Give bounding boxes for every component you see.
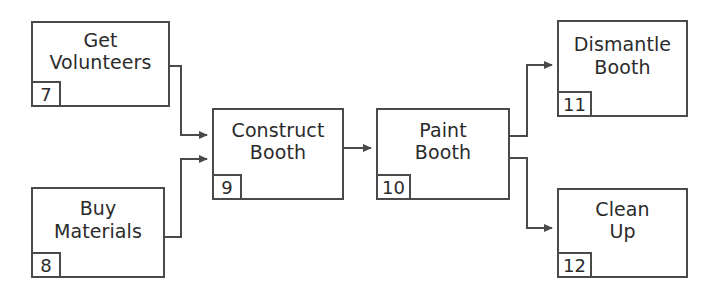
node-buy-materials: BuyMaterials8 (31, 187, 165, 278)
node-label-line: Volunteers (49, 51, 151, 73)
node-label-clean-up: CleanUp (559, 190, 686, 252)
node-paint-booth: PaintBooth10 (376, 108, 510, 200)
node-label-line: Booth (594, 56, 650, 78)
node-label-line: Get (83, 29, 117, 51)
edge-buy-materials-to-construct-booth (165, 159, 207, 237)
node-label-line: Paint (419, 119, 467, 141)
node-get-volunteers: GetVolunteers7 (31, 21, 170, 107)
node-clean-up: CleanUp12 (557, 188, 688, 278)
node-label-construct-booth: ConstructBooth (214, 110, 342, 174)
node-label-dismantle-booth: DismantleBooth (559, 22, 686, 91)
node-dismantle-booth: DismantleBooth11 (557, 20, 688, 117)
node-label-get-volunteers: GetVolunteers (33, 23, 168, 81)
node-label-line: Dismantle (574, 33, 671, 55)
node-label-line: Buy (80, 197, 117, 219)
edge-paint-booth-to-clean-up (510, 158, 552, 228)
node-id-paint-booth: 10 (376, 174, 411, 200)
node-label-buy-materials: BuyMaterials (33, 189, 163, 252)
node-label-line: Booth (250, 141, 306, 163)
node-id-construct-booth: 9 (212, 174, 242, 200)
node-construct-booth: ConstructBooth9 (212, 108, 344, 200)
node-label-paint-booth: PaintBooth (378, 110, 508, 174)
node-id-get-volunteers: 7 (31, 81, 61, 107)
node-label-line: Materials (54, 220, 142, 242)
node-label-line: Construct (232, 119, 325, 141)
node-label-line: Clean (595, 198, 649, 220)
node-label-line: Booth (415, 141, 471, 163)
node-id-buy-materials: 8 (31, 252, 61, 278)
node-id-clean-up: 12 (557, 252, 592, 278)
edge-paint-booth-to-dismantle-booth (510, 65, 552, 136)
edge-get-volunteers-to-construct-booth (170, 66, 207, 135)
activity-network-diagram: GetVolunteers7BuyMaterials8ConstructBoot… (0, 0, 715, 296)
node-label-line: Up (609, 220, 635, 242)
node-id-dismantle-booth: 11 (557, 91, 592, 117)
